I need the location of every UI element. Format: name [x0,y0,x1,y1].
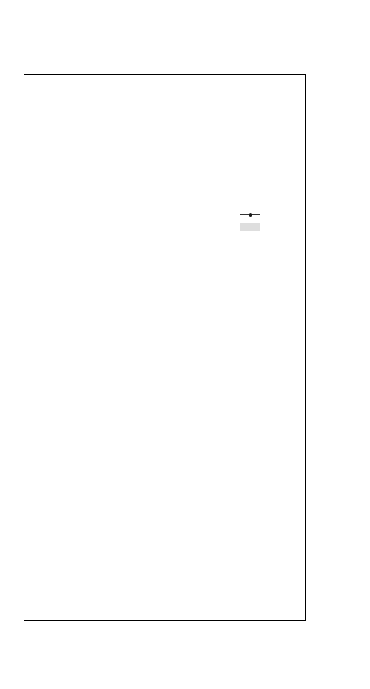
chart-plot-area [24,74,306,621]
figure-caption [338,0,364,689]
legend-line-swatch-icon [240,210,260,220]
legend-item-per-thousand [235,208,260,221]
figure-body [0,0,370,689]
line-series-per-thousand [24,74,306,621]
legend-bar-swatch-icon [240,223,260,233]
line-path-svg [24,74,306,621]
chart-legend [235,208,260,234]
legend-item-absolute-numbers [235,221,260,234]
